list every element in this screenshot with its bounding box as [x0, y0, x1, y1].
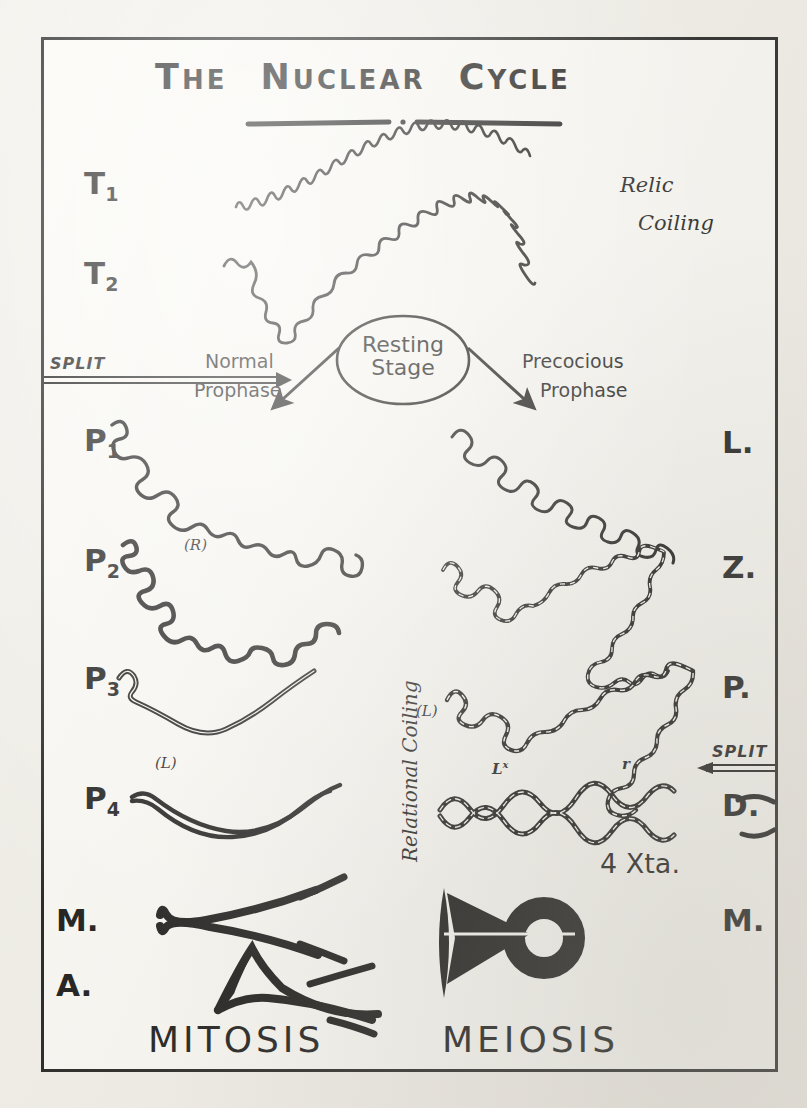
resting-stage-label: Resting Stage: [350, 333, 456, 379]
stage-letter: D.: [722, 787, 760, 823]
annotation-normal-prophase-line1: Normal: [205, 352, 274, 371]
chiasma-lx-superscript: x: [503, 759, 509, 770]
resting-stage-line2: Stage: [350, 356, 456, 379]
annotation-r-mark: (R): [184, 538, 207, 553]
stage-subscript: 3: [107, 678, 120, 700]
stage-letter: P: [84, 660, 107, 696]
annotation-chiasma-r: r: [622, 757, 630, 772]
stage-label-M-meiosis: M.: [722, 905, 765, 936]
stage-letter: P: [84, 542, 107, 578]
stage-subscript: 1: [107, 440, 120, 462]
stage-letter: T: [84, 165, 105, 201]
title-word-the-rest: HE: [182, 65, 228, 95]
page-title: THE NUCLEAR CYCLE: [155, 60, 571, 95]
annotation-relic-coiling-line1: Relic: [620, 175, 673, 196]
stage-label-D-diplotene: D.: [722, 790, 760, 821]
title-word-nuclear-rest: UCLEAR: [293, 65, 426, 95]
annotation-xta-count: 4 Xta.: [600, 850, 680, 877]
stage-letter: P: [84, 780, 107, 816]
stage-letter: Z.: [722, 549, 756, 585]
title-word-cycle-rest: YCLE: [487, 65, 570, 95]
annotation-normal-prophase-line2: Prophase: [194, 381, 281, 400]
stage-label-L: L.: [722, 427, 754, 458]
annotation-relational-coiling: Relational Coiling: [400, 681, 420, 862]
stage-label-M-mitosis: M.: [56, 905, 99, 936]
stage-label-P-pachytene: P.: [722, 672, 751, 703]
stage-subscript: 4: [107, 798, 120, 820]
stage-label-T2: T2: [84, 258, 118, 294]
stage-label-A-mitosis: A.: [56, 970, 92, 1001]
resting-stage-line1: Resting: [350, 333, 456, 356]
stage-label-P3: P3: [84, 663, 120, 699]
stage-label-P1: P1: [84, 425, 120, 461]
stage-subscript: 2: [105, 273, 118, 295]
stage-letter: T: [84, 255, 105, 291]
stage-subscript: 1: [105, 183, 118, 205]
column-caption-meiosis: MEIOSIS: [442, 1022, 619, 1058]
stage-letter: L.: [722, 424, 754, 460]
stage-label-P4: P4: [84, 783, 120, 819]
chiasma-lx-letter: L: [492, 760, 503, 778]
stage-letter: M.: [722, 902, 765, 938]
split-label-right: SPLIT: [712, 744, 767, 760]
annotation-precocious-prophase-line1: Precocious: [522, 352, 624, 371]
annotation-relic-coiling-line2: Coiling: [638, 213, 714, 234]
paper-sheet: THE NUCLEAR CYCLE T1 T2 P1 P2 P3 P4 M. A…: [0, 0, 807, 1108]
stage-label-Z: Z.: [722, 552, 756, 583]
column-caption-mitosis: MITOSIS: [148, 1022, 324, 1058]
stage-letter: P.: [722, 669, 751, 705]
annotation-l-mark-left: (L): [155, 756, 177, 771]
title-word-the-cap: T: [155, 57, 182, 97]
stage-label-T1: T1: [84, 168, 118, 204]
stage-label-P2: P2: [84, 545, 120, 581]
annotation-precocious-prophase-line2: Prophase: [540, 381, 627, 400]
stage-subscript: 2: [107, 560, 120, 582]
stage-letter: P: [84, 422, 107, 458]
split-label-left: SPLIT: [50, 356, 105, 372]
title-word-cycle-cap: C: [459, 57, 488, 97]
title-word-nuclear-cap: N: [261, 57, 293, 97]
annotation-chiasma-lx: Lx: [492, 760, 509, 777]
stage-letter: A.: [56, 967, 92, 1003]
stage-letter: M.: [56, 902, 99, 938]
